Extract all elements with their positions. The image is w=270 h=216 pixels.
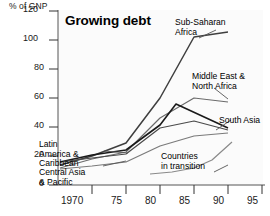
series-label-central-asia-pacific: Central Asia & Pacific xyxy=(39,168,85,187)
series-label-line-2: Africa xyxy=(175,28,226,38)
series-label-latin-america-caribbean: Latin America & Caribbean xyxy=(39,140,79,169)
series-label-line-2: in transition xyxy=(161,162,205,172)
xtick-label-90: 90 xyxy=(213,195,224,206)
xtick-label-85: 85 xyxy=(179,195,190,206)
ytick-label-60: 60 xyxy=(18,91,44,101)
ytick-label-40: 40 xyxy=(18,120,44,130)
series-label-line-1: South Asia xyxy=(219,116,260,126)
xtick-label-80: 80 xyxy=(145,195,156,206)
series-label-countries-in-transition: Countries in transition xyxy=(161,152,205,171)
series-label-middle-east-north-africa: Middle East & North Africa xyxy=(192,72,245,91)
xtick-label-75: 75 xyxy=(111,195,122,206)
growing-debt-chart: % of GNP Growing debt 0 20 40 60 80 100 … xyxy=(0,0,270,216)
series-label-sub-saharan-africa: Sub-Saharan Africa xyxy=(175,18,226,37)
xtick-label-1970: 1970 xyxy=(61,195,83,206)
xtick-label-95: 95 xyxy=(247,195,258,206)
x-axis-ticks xyxy=(92,185,262,194)
ytick-label-120: 120 xyxy=(12,4,38,14)
ytick-label-80: 80 xyxy=(18,62,44,72)
series-label-line-2: North Africa xyxy=(192,82,245,92)
ytick-label-100: 100 xyxy=(12,33,38,43)
series-label-south-asia: South Asia xyxy=(219,116,260,126)
series-label-line-2: & Pacific xyxy=(39,178,85,188)
chart-title: Growing debt xyxy=(65,13,151,28)
